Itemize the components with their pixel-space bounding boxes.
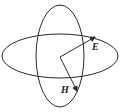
h-vector-label: H xyxy=(60,84,70,95)
e-vector-arrow xyxy=(60,37,95,57)
horizontal-ellipse xyxy=(2,34,118,78)
em-field-diagram: E H xyxy=(0,0,124,112)
e-vector-label: E xyxy=(91,41,99,52)
vertical-ellipse xyxy=(36,5,84,107)
